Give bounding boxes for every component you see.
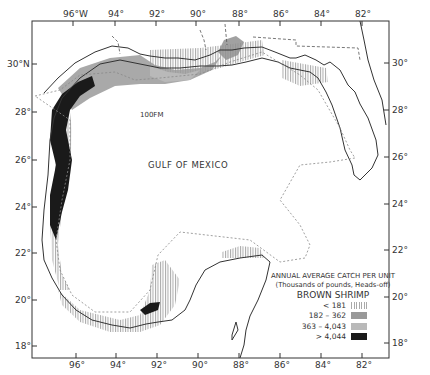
legend-row-low: < 181 — [268, 300, 398, 311]
hatch-swatch-icon — [351, 302, 367, 309]
svg-text:88°: 88° — [232, 9, 248, 19]
svg-text:86°: 86° — [274, 360, 290, 370]
bottom-ticks — [76, 353, 362, 358]
light-gray-swatch-icon — [351, 323, 367, 330]
svg-text:24°: 24° — [392, 199, 408, 209]
svg-text:84°: 84° — [314, 9, 330, 19]
catch-zone-highest — [50, 76, 95, 240]
svg-text:18°: 18° — [15, 341, 31, 351]
svg-text:22°: 22° — [15, 248, 31, 258]
gulf-label: GULF OF MEXICO — [148, 160, 228, 170]
svg-text:92°: 92° — [151, 360, 167, 370]
svg-text:96°W: 96°W — [63, 9, 88, 19]
svg-text:22°: 22° — [392, 245, 408, 255]
svg-text:30°N: 30°N — [7, 59, 30, 69]
left-ticks — [32, 64, 37, 346]
top-longitude-labels: 96°W 94° 92° 90° 88° 86° 84° 82° — [63, 9, 371, 19]
legend-row-highest: > 4,044 — [268, 332, 398, 343]
svg-text:94°: 94° — [108, 9, 124, 19]
svg-text:30°: 30° — [392, 58, 408, 68]
contour-label: 100FM — [140, 111, 163, 119]
svg-text:28°: 28° — [15, 107, 31, 117]
svg-text:86°: 86° — [273, 9, 289, 19]
legend-title: ANNUAL AVERAGE CATCH PER UNIT — [268, 272, 398, 281]
legend-row-medium: 182 – 362 — [268, 311, 398, 322]
black-swatch-icon — [351, 333, 367, 340]
svg-text:82°: 82° — [355, 9, 371, 19]
cuba-coast — [232, 322, 238, 340]
legend-subtitle: (Thousands of pounds, Heads-off) — [268, 281, 398, 290]
svg-text:94°: 94° — [110, 360, 126, 370]
medium-gray-swatch-icon — [351, 312, 367, 319]
svg-text:84°: 84° — [315, 360, 331, 370]
svg-text:90°: 90° — [192, 360, 208, 370]
legend: ANNUAL AVERAGE CATCH PER UNIT (Thousands… — [268, 272, 398, 342]
svg-text:20°: 20° — [15, 295, 31, 305]
svg-text:28°: 28° — [392, 105, 408, 115]
svg-text:90°: 90° — [190, 9, 206, 19]
svg-text:92°: 92° — [149, 9, 165, 19]
svg-text:24°: 24° — [15, 202, 31, 212]
svg-text:96°: 96° — [69, 360, 85, 370]
svg-text:26°: 26° — [392, 152, 408, 162]
legend-species: BROWN SHRIMP — [268, 291, 398, 300]
florida-east-coast — [360, 21, 386, 125]
svg-text:88°: 88° — [233, 360, 249, 370]
svg-text:26°: 26° — [15, 155, 31, 165]
top-ticks — [73, 21, 362, 26]
legend-row-high: 363 – 4,043 — [268, 321, 398, 332]
left-latitude-labels: 30°N 28° 26° 24° 22° 20° 18° — [7, 59, 31, 351]
bottom-longitude-labels: 96° 94° 92° 90° 88° 86° 84° 82° — [69, 360, 372, 370]
svg-text:82°: 82° — [356, 360, 372, 370]
